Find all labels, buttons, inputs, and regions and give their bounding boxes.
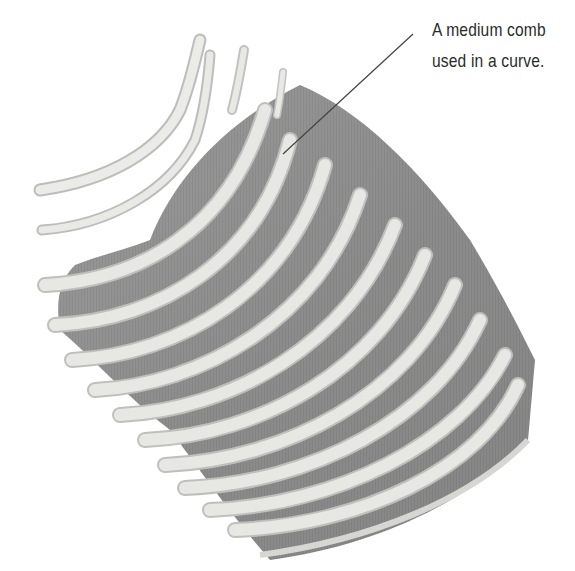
caption-line-1: A medium comb [432, 14, 546, 45]
illustration-stage: A medium comb used in a curve. [0, 0, 575, 571]
comb-image [0, 0, 575, 571]
caption-line-2: used in a curve. [432, 45, 546, 76]
annotation-caption: A medium comb used in a curve. [432, 14, 546, 76]
